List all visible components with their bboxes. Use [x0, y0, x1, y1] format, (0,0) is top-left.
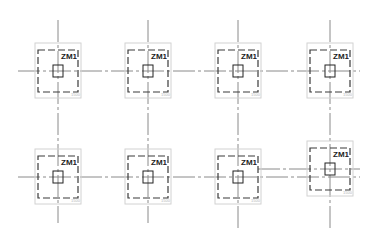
footing-size-tag: 1500: [71, 92, 81, 97]
footing-size-tag: 1500: [161, 198, 171, 203]
footing-label: ZM1: [241, 52, 258, 61]
footing-label: ZM1: [61, 52, 78, 61]
footing-label: ZM1: [333, 150, 350, 159]
footing-label: ZM1: [151, 158, 168, 167]
footing-label: ZM1: [241, 158, 258, 167]
foundation-plan-canvas: ZM11500ZM11500ZM11500ZM11500ZM11500ZM115…: [0, 0, 376, 241]
footing-size-tag: 1500: [161, 92, 171, 97]
footing-label: ZM1: [61, 158, 78, 167]
footing-size-tag: 1500: [251, 92, 261, 97]
footing-label: ZM1: [333, 52, 350, 61]
footing-size-tag: 1500: [251, 198, 261, 203]
footing-group: ZM11500ZM11500ZM11500ZM11500ZM11500ZM115…: [35, 43, 353, 204]
footing-label: ZM1: [151, 52, 168, 61]
footing-size-tag: 1500: [71, 198, 81, 203]
footing-size-tag: 1500: [343, 190, 353, 195]
footing-size-tag: 1500: [343, 92, 353, 97]
